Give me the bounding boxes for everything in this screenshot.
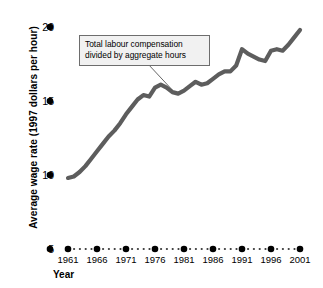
callout-text-line-2: divided by aggregate hours bbox=[85, 50, 204, 61]
series-callout-box: Total labour compensation divided by agg… bbox=[79, 35, 210, 66]
callout-text-line-1: Total labour compensation bbox=[85, 39, 183, 49]
wage-rate-chart-figure: Average wage rate (1997 dollars per hour… bbox=[0, 0, 323, 288]
